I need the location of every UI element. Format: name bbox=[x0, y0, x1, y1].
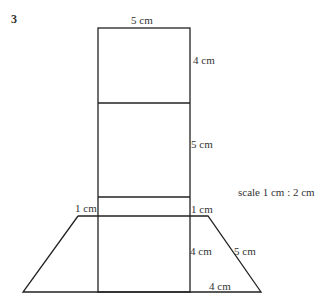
label-strip-right: 1 cm bbox=[191, 204, 213, 215]
label-trapezoid-height: 4 cm bbox=[190, 246, 212, 257]
label-top-width: 5 cm bbox=[131, 15, 153, 26]
label-slant-side: 5 cm bbox=[234, 246, 256, 257]
label-middle-section-height: 5 cm bbox=[191, 139, 213, 150]
net-diagram bbox=[0, 0, 329, 306]
label-top-section-height: 4 cm bbox=[193, 55, 215, 66]
central-rectangle bbox=[98, 28, 190, 292]
label-strip-left: 1 cm bbox=[75, 203, 97, 214]
label-base-overhang: 4 cm bbox=[209, 281, 231, 292]
label-scale: scale 1 cm : 2 cm bbox=[238, 187, 315, 198]
